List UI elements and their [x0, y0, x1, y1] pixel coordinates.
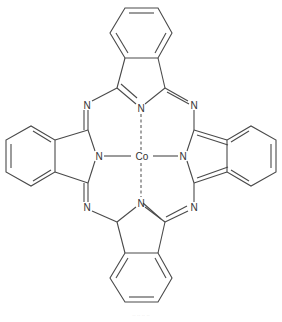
left-isoindole	[6, 110, 95, 202]
nitrogen-meso-bottom-left: N	[83, 202, 90, 213]
faint-caption: ·· ·· ·· ··	[0, 312, 282, 318]
cobalt-phthalocyanine-structure: Co N N N N N N N N	[0, 0, 282, 322]
nitrogen-meso-bottom-right: N	[190, 202, 197, 213]
right-isoindole	[187, 110, 276, 202]
bottom-isoindole	[92, 203, 188, 302]
cobalt-atom: Co	[136, 151, 149, 162]
nitrogen-left: N	[95, 151, 102, 162]
nitrogen-bottom: N	[137, 198, 144, 209]
nitrogen-meso-top-left: N	[83, 100, 90, 111]
nitrogen-meso-top-right: N	[190, 100, 197, 111]
top-isoindole	[92, 8, 189, 104]
nitrogen-right: N	[179, 151, 186, 162]
nitrogen-top: N	[137, 103, 144, 114]
